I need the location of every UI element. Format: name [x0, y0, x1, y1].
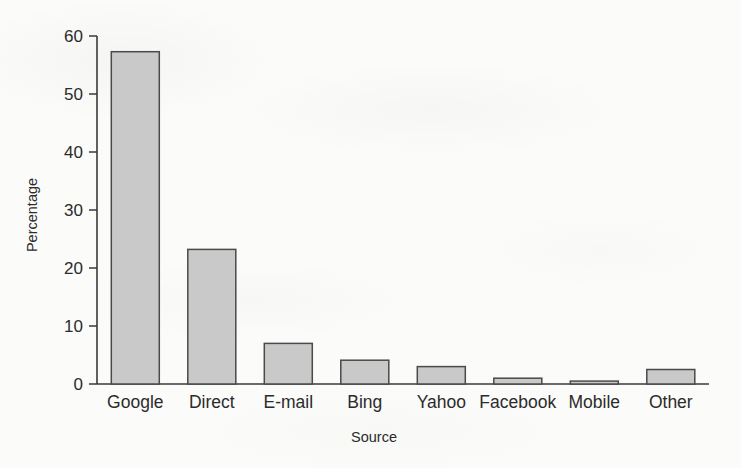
chart-figure: Percentage 60 50 40 30 20 10 0 GoogleDi	[0, 0, 741, 468]
y-tick-label-50: 50	[64, 85, 83, 104]
bar-e-mail	[264, 343, 312, 384]
bar-series	[111, 52, 695, 384]
y-tick-label-10: 10	[64, 317, 83, 336]
y-tick-label-20: 20	[64, 259, 83, 278]
y-axis-tick-labels: 60 50 40 30 20 10 0	[64, 27, 83, 394]
y-tick-label-40: 40	[64, 143, 83, 162]
x-tick-label-mobile: Mobile	[569, 392, 621, 412]
bar-other	[647, 370, 695, 385]
bar-direct	[188, 249, 236, 384]
x-tick-label-facebook: Facebook	[479, 392, 556, 412]
x-axis-tick-labels: GoogleDirectE-mailBingYahooFacebookMobil…	[107, 392, 693, 412]
bar-facebook	[494, 378, 542, 384]
bar-google	[111, 52, 159, 384]
x-tick-label-bing: Bing	[347, 392, 382, 412]
bar-chart-canvas: Percentage 60 50 40 30 20 10 0 GoogleDi	[0, 0, 741, 468]
y-tick-label-60: 60	[64, 27, 83, 46]
x-tick-label-google: Google	[107, 392, 163, 412]
y-tick-label-0: 0	[74, 375, 83, 394]
x-tick-label-e-mail: E-mail	[264, 392, 314, 412]
y-axis-ticks	[89, 36, 97, 384]
bar-yahoo	[417, 367, 465, 384]
bar-mobile	[570, 381, 618, 384]
x-tick-label-direct: Direct	[189, 392, 235, 412]
bar-bing	[341, 360, 389, 384]
y-axis-title: Percentage	[24, 178, 40, 252]
x-tick-label-yahoo: Yahoo	[417, 392, 466, 412]
x-axis-title: Source	[351, 429, 397, 445]
y-tick-label-30: 30	[64, 201, 83, 220]
x-tick-label-other: Other	[649, 392, 693, 412]
